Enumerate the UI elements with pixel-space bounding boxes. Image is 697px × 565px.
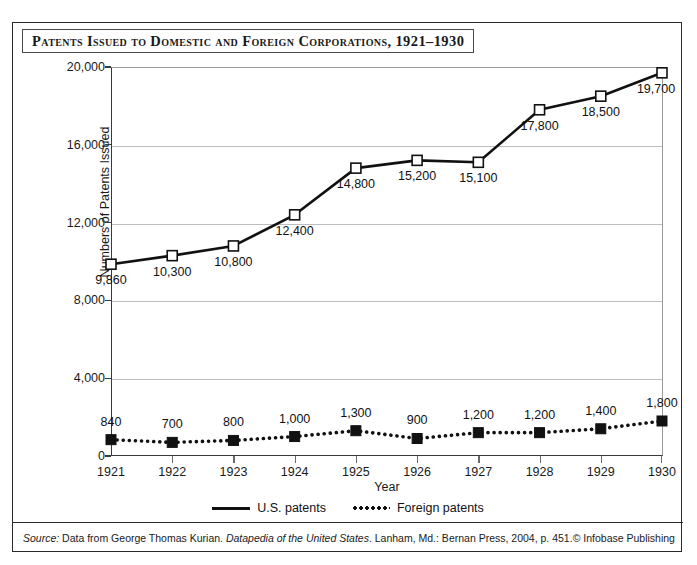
legend-item-foreign-patents[interactable]: Foreign patents <box>352 501 484 515</box>
legend-item-us-patents[interactable]: U.S. patents <box>212 501 326 515</box>
y-axis-tick-label: 0 <box>98 449 105 463</box>
chart-figure: Patents Issued to Domestic and Foreign C… <box>12 22 682 552</box>
x-axis-tick-label: 1924 <box>281 465 309 479</box>
y-axis-tick-label: 20,000 <box>67 60 105 74</box>
x-axis-tick-label: 1923 <box>220 465 248 479</box>
data-point-label: 10,300 <box>153 265 191 279</box>
data-point-label: 800 <box>223 415 244 429</box>
data-point-label: 15,200 <box>398 169 436 183</box>
x-axis-tick-label: 1928 <box>526 465 554 479</box>
x-axis-title: Year <box>111 480 663 494</box>
x-axis-tick-mark <box>233 456 234 463</box>
source-text: Source: Data from George Thomas Kurian. … <box>23 532 573 544</box>
x-axis-tick-mark <box>356 456 357 463</box>
x-axis-tick-mark <box>540 456 541 463</box>
data-point-label: 1,300 <box>340 406 371 420</box>
x-axis-tick-label: 1926 <box>403 465 431 479</box>
source-row: Source: Data from George Thomas Kurian. … <box>13 526 683 550</box>
data-point-label: 1,800 <box>646 396 677 410</box>
x-axis-tick-label: 1927 <box>464 465 492 479</box>
x-axis-tick-mark <box>172 456 173 463</box>
source-body-1: Data from George Thomas Kurian. <box>59 532 226 544</box>
source-body-2: . Lanham, Md.: Bernan Press, 2004, p. 45… <box>369 532 573 544</box>
source-publication-title: Datapedia of the United States <box>226 532 369 544</box>
source-divider <box>13 522 683 523</box>
data-point-label: 840 <box>101 415 122 429</box>
data-point-label: 15,100 <box>459 171 497 185</box>
data-label-layer: 9,86010,30010,80012,40014,80015,20015,10… <box>111 67 663 456</box>
legend-label-foreign-patents: Foreign patents <box>397 501 484 515</box>
data-point-label: 14,800 <box>337 177 375 191</box>
x-axis-tick-label: 1922 <box>158 465 186 479</box>
x-axis-tick-mark <box>295 456 296 463</box>
x-axis-tick-label: 1929 <box>587 465 615 479</box>
data-point-label: 10,800 <box>214 255 252 269</box>
legend-line-dotted-icon <box>352 506 390 510</box>
y-axis-tick-label: 8,000 <box>74 293 105 307</box>
data-point-label: 700 <box>162 417 183 431</box>
data-point-label: 1,200 <box>524 408 555 422</box>
x-axis-tick-mark <box>478 456 479 463</box>
data-point-label: 900 <box>407 413 428 427</box>
data-point-label: 9,860 <box>95 273 126 287</box>
y-axis-tick-label: 16,000 <box>67 138 105 152</box>
x-axis-tick-mark <box>601 456 602 463</box>
y-axis-tick-label: 12,000 <box>67 216 105 230</box>
y-axis-tick-label: 4,000 <box>74 371 105 385</box>
chart-legend: U.S. patents Foreign patents <box>13 501 683 515</box>
x-axis-tick-label: 1930 <box>648 465 676 479</box>
y-axis-tick-labels: 04,0008,00012,00016,00020,000 <box>41 67 105 456</box>
data-point-label: 18,500 <box>582 105 620 119</box>
x-axis-tick-mark <box>661 456 662 463</box>
legend-line-solid-icon <box>212 507 250 510</box>
x-axis-tick-mark <box>417 456 418 463</box>
data-point-label: 1,400 <box>585 404 616 418</box>
x-axis-tick-label: 1921 <box>97 465 125 479</box>
publisher-credit: © Infobase Publishing <box>573 532 675 544</box>
data-point-label: 19,700 <box>637 82 675 96</box>
data-point-label: 1,200 <box>463 408 494 422</box>
data-point-label: 12,400 <box>276 224 314 238</box>
data-point-label: 17,800 <box>520 119 558 133</box>
source-prefix: Source: <box>23 532 59 544</box>
data-point-label: 1,000 <box>279 412 310 426</box>
x-axis-tick-label: 1925 <box>342 465 370 479</box>
plot-wrapper: Numbers of Patents Issued 04,0008,00012,… <box>13 23 683 553</box>
legend-label-us-patents: U.S. patents <box>257 501 326 515</box>
